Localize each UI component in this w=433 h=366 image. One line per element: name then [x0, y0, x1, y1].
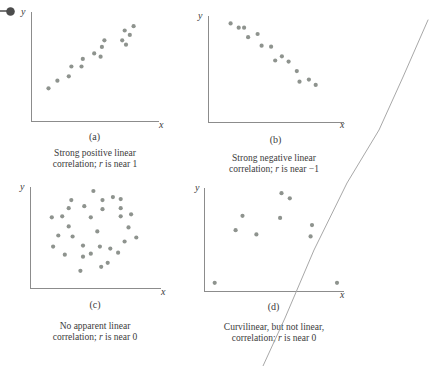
scatter-dot	[63, 253, 67, 257]
scatter-dot	[92, 51, 96, 55]
scatter-dot	[106, 261, 110, 265]
scatter-dot	[124, 43, 128, 47]
scatter-dot	[128, 33, 132, 37]
bullet-icon	[6, 7, 15, 16]
scatter-dot	[307, 78, 311, 82]
scatter-dot	[100, 198, 104, 202]
scatter-dot	[91, 189, 95, 193]
scatter-dot	[256, 32, 260, 36]
scatter-dot	[278, 216, 282, 220]
scatter-dot	[67, 74, 71, 78]
scatter-dot	[132, 24, 136, 28]
scatter-dot	[89, 215, 93, 219]
scatter-dot	[56, 233, 60, 237]
scatter-dot	[314, 83, 318, 87]
caption-line1: Strong positive linear	[54, 148, 136, 158]
scatter-dot	[335, 281, 339, 285]
scatter-plot-c	[31, 187, 161, 288]
scatter-dot	[95, 229, 99, 233]
scatter-dot	[69, 64, 73, 68]
scatter-dot	[99, 265, 103, 269]
panel-tag-d: (d)	[204, 301, 343, 312]
scatter-dot	[260, 44, 264, 48]
scatter-dot	[60, 214, 64, 218]
scatter-dot	[81, 255, 85, 259]
caption-line2-post: is near −1	[279, 164, 319, 174]
scatter-dot	[287, 60, 291, 64]
plot-area-b	[208, 16, 344, 123]
scatter-dot	[123, 28, 127, 32]
scatter-dot	[295, 69, 299, 73]
plot-area-a	[31, 12, 159, 122]
figure-correlation-examples: y x (a) Strong positive linear correlati…	[0, 0, 433, 366]
scatter-plot-a	[32, 12, 159, 121]
caption-line1: No apparent linear	[60, 321, 131, 331]
caption-line2-pre: correlation;	[53, 159, 99, 169]
scatter-dot	[82, 204, 86, 208]
scatter-dot	[213, 281, 217, 285]
scatter-dot	[229, 21, 233, 25]
scatter-plot-d	[205, 188, 344, 291]
caption-line2-post: is near 0	[103, 332, 138, 342]
x-axis-label: x	[161, 287, 165, 297]
scatter-dot	[111, 195, 115, 199]
scatter-dot	[71, 234, 75, 238]
caption-line1: Strong negative linear	[232, 153, 316, 163]
y-axis-label: y	[198, 11, 202, 21]
plot-area-d	[204, 188, 344, 292]
scatter-dot	[297, 80, 301, 84]
scatter-dot	[119, 206, 123, 210]
scatter-dot	[69, 198, 73, 202]
x-axis-label: x	[340, 290, 344, 300]
panel-tag-b: (b)	[208, 134, 343, 145]
panel-tag-a: (a)	[31, 131, 158, 142]
scatter-dot	[123, 239, 127, 243]
scatter-dot	[240, 214, 244, 218]
panel-tag-c: (c)	[30, 299, 160, 310]
scatter-dot	[269, 45, 273, 49]
scatter-dot	[280, 54, 284, 58]
scatter-dot	[129, 212, 133, 216]
scatter-dot	[100, 207, 104, 211]
caption-line2-post: is near 1	[103, 159, 138, 169]
plot-area-c	[30, 187, 161, 289]
scatter-dot	[126, 225, 130, 229]
scatter-dot	[288, 196, 292, 200]
scatter-dot	[50, 215, 54, 219]
caption-line2-pre: correlation;	[229, 164, 275, 174]
scatter-dot	[99, 55, 103, 59]
scatter-dot	[67, 206, 71, 210]
scatter-dot	[119, 214, 123, 218]
scatter-dot	[242, 26, 246, 30]
scatter-dot	[273, 58, 277, 62]
scatter-dot	[310, 223, 314, 227]
scatter-dot	[102, 38, 106, 42]
scatter-dot	[78, 269, 82, 273]
panel-caption-b: Strong negative linear correlation; r is…	[194, 153, 354, 174]
scatter-dot	[279, 191, 283, 195]
caption-line1: Curvilinear, but not linear,	[224, 322, 324, 332]
scatter-dot	[89, 252, 93, 256]
scatter-dot	[246, 35, 250, 39]
scatter-dot	[108, 247, 112, 251]
scatter-dot	[79, 64, 83, 68]
scatter-plot-b	[209, 16, 344, 122]
scatter-dot	[116, 251, 120, 255]
scatter-dot	[81, 57, 85, 61]
scatter-dot	[309, 234, 313, 238]
scatter-dot	[120, 38, 124, 42]
panel-caption-a: Strong positive linear correlation; r is…	[15, 148, 175, 169]
caption-line2-pre: correlation;	[232, 333, 278, 343]
scatter-dot	[81, 244, 85, 248]
caption-line2-pre: correlation;	[53, 332, 99, 342]
scatter-dot	[46, 86, 50, 90]
scatter-dot	[100, 45, 104, 49]
x-axis-label: x	[340, 120, 344, 130]
y-axis-label: y	[21, 7, 25, 17]
scatter-dot	[254, 232, 258, 236]
y-axis-label: y	[20, 182, 24, 192]
scatter-dot	[234, 228, 238, 232]
scatter-dot	[67, 224, 71, 228]
scatter-dot	[51, 245, 55, 249]
scatter-dot	[55, 79, 59, 83]
